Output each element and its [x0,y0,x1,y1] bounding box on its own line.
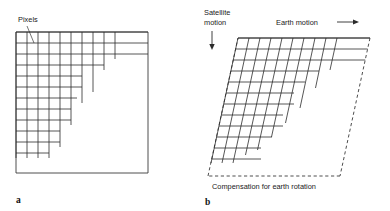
figure-container: Pixels a Satellite motion Earth motion [0,0,390,211]
figure-svg: Pixels a Satellite motion Earth motion [0,0,390,211]
earth-motion-label: Earth motion [276,18,318,27]
panel-a: Pixels a [16,15,148,205]
panel-b: Satellite motion Earth motion [204,8,370,207]
earth-motion-arrow-icon [337,19,359,24]
panel-b-letter: b [205,197,210,207]
panel-b-vertical-grid [211,38,337,163]
satellite-motion-arrow-icon [209,31,214,50]
pixels-leader-line [27,26,34,43]
satellite-motion-label-line1: Satellite [204,8,230,17]
panel-a-vertical-grid [16,32,115,158]
pixels-label: Pixels [18,15,38,24]
panel-a-letter: a [16,195,21,205]
compensation-label: Compensation for earth rotation [212,182,316,191]
satellite-motion-label-line2: motion [204,18,226,27]
